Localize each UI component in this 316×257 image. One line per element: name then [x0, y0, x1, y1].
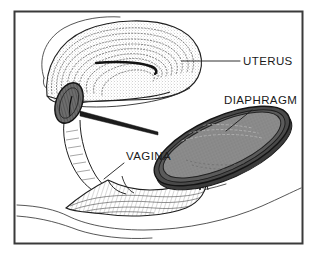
label-diaphragm: DIAPHRAGM — [224, 94, 297, 106]
anatomy-illustration-canvas: UTERUS DIAPHRAGM VAGINA — [0, 0, 316, 257]
anatomy-figure: UTERUS DIAPHRAGM VAGINA — [0, 0, 316, 257]
label-vagina: VAGINA — [126, 150, 171, 162]
label-uterus: UTERUS — [243, 55, 293, 67]
